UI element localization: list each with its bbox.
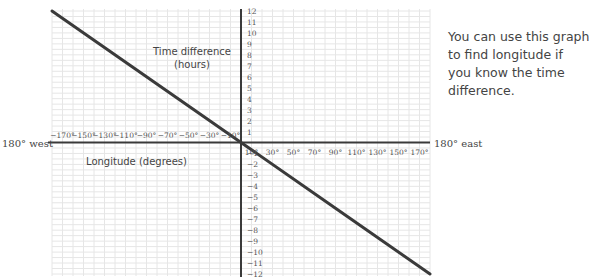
y-tick-label: −4: [247, 182, 258, 191]
note-line-3: you know the time: [448, 64, 598, 82]
note-line-1: You can use this graph: [448, 28, 598, 46]
x-tick-label-east: 150°: [389, 148, 407, 157]
y-tick-label: 1: [247, 128, 252, 137]
y-tick-label: 10: [247, 29, 257, 38]
y-axis-title-line-2: (hours): [174, 59, 210, 70]
y-tick-label: −8: [247, 226, 258, 235]
y-tick-label: −2: [247, 160, 258, 169]
y-tick-label: −6: [247, 204, 258, 213]
y-tick-label: −7: [247, 215, 258, 224]
y-tick-label: −11: [247, 259, 263, 268]
y-tick-label: 12: [247, 7, 257, 16]
y-tick-label: −3: [247, 171, 258, 180]
x-tick-label-west: −110°: [113, 131, 138, 140]
y-tick-label: 7: [247, 62, 252, 71]
x-axis-end-label-east: 180° east: [434, 138, 482, 149]
explanatory-note: You can use this graph to find longitude…: [448, 28, 598, 100]
y-tick-label: 8: [247, 51, 252, 60]
note-line-4: difference.: [448, 82, 598, 100]
y-tick-label: 9: [247, 40, 252, 49]
y-tick-label: 3: [247, 106, 252, 115]
x-tick-label-west: −50°: [179, 131, 199, 140]
x-tick-label-west: −90°: [137, 131, 157, 140]
x-tick-label-east: 10°: [245, 148, 259, 157]
x-tick-label-west: −30°: [200, 131, 220, 140]
y-tick-label: −9: [247, 237, 258, 246]
y-tick-label: 2: [247, 117, 252, 126]
x-tick-label-east: 170°: [410, 148, 428, 157]
x-tick-label-east: 130°: [368, 148, 386, 157]
y-tick-label: −10: [247, 248, 263, 257]
x-tick-label-east: 110°: [347, 148, 365, 157]
y-tick-label: 6: [247, 73, 252, 82]
x-tick-label-west: −70°: [158, 131, 178, 140]
x-axis-title: Longitude (degrees): [86, 156, 187, 167]
x-axis-end-label-west: 180° west: [2, 138, 53, 149]
x-tick-label-east: 50°: [287, 148, 301, 157]
y-tick-label: 4: [247, 95, 252, 104]
x-tick-label-east: 30°: [266, 148, 280, 157]
y-tick-label: 11: [247, 18, 257, 27]
x-tick-label-east: 90°: [329, 148, 343, 157]
x-tick-label-west: −10°: [221, 131, 241, 140]
y-tick-label: −5: [247, 193, 258, 202]
note-line-2: to find longitude if: [448, 46, 598, 64]
y-tick-label: −12: [247, 270, 263, 279]
x-tick-label-east: 70°: [308, 148, 322, 157]
y-tick-label: 5: [247, 84, 252, 93]
y-axis-title-line-1: Time difference: [152, 46, 231, 57]
